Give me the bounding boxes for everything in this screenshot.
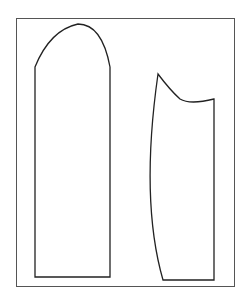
bodice-piece xyxy=(150,74,214,280)
diagram-svg xyxy=(0,0,245,304)
pattern-diagram xyxy=(0,0,245,304)
frame-border xyxy=(17,19,235,287)
sleeve-piece xyxy=(35,24,110,277)
